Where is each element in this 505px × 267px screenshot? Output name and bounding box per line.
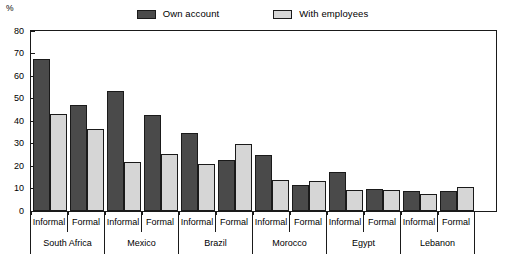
sector-label-mexico-formal: Formal — [141, 212, 178, 232]
bar-mexico-formal-emp — [161, 154, 178, 211]
bar-mexico-informal-emp — [124, 162, 141, 212]
legend-item-own: Own account — [137, 9, 220, 19]
y-tick-label: 10 — [14, 184, 31, 193]
legend-label-emp: With employees — [299, 9, 368, 19]
sector-label-brazil-formal: Formal — [215, 212, 252, 232]
sector-cell-brazil-informal — [179, 31, 216, 211]
sector-cell-egypt-formal — [364, 31, 401, 211]
sector-cell-egypt-informal — [327, 31, 364, 211]
bar-lebanon-informal-emp — [420, 194, 437, 211]
sector-cell-lebanon-formal — [438, 31, 475, 211]
bar-brazil-formal-emp — [235, 144, 252, 212]
country-group-morocco — [253, 31, 327, 211]
label-row-end-cap — [474, 232, 475, 254]
y-tick-label: 20 — [14, 162, 31, 171]
y-tick-label: 70 — [14, 49, 31, 58]
sector-label-morocco-formal: Formal — [289, 212, 326, 232]
bar-egypt-informal-emp — [346, 190, 363, 211]
sector-cell-mexico-formal — [142, 31, 179, 211]
bar-groups — [31, 31, 496, 211]
bar-south-africa-informal-emp — [50, 114, 67, 211]
sector-label-egypt-formal: Formal — [363, 212, 400, 232]
bar-lebanon-informal-own — [403, 191, 420, 211]
legend-swatch-own — [137, 10, 156, 19]
x-axis-labels: InformalFormalInformalFormalInformalForm… — [30, 212, 497, 254]
bar-morocco-formal-emp — [309, 181, 326, 211]
bar-brazil-informal-own — [181, 133, 198, 211]
sector-label-egypt-informal: Informal — [326, 212, 363, 232]
bar-brazil-informal-emp — [198, 164, 215, 211]
y-tick-label: 40 — [14, 117, 31, 126]
bar-egypt-formal-own — [366, 189, 383, 212]
sector-label-south-africa-formal: Formal — [67, 212, 104, 232]
legend-item-emp: With employees — [273, 9, 368, 19]
bar-egypt-formal-emp — [383, 190, 400, 211]
legend-swatch-emp — [273, 10, 292, 19]
bar-mexico-informal-own — [107, 91, 124, 211]
bar-south-africa-formal-own — [70, 105, 87, 211]
bar-morocco-informal-emp — [272, 180, 289, 212]
plot-area: 01020304050607080 — [30, 30, 497, 212]
country-label-south-africa: South Africa — [30, 232, 104, 254]
sector-cell-south-africa-formal — [68, 31, 105, 211]
bar-south-africa-informal-own — [33, 59, 50, 211]
sector-label-lebanon-formal: Formal — [437, 212, 474, 232]
country-label-row: South AfricaMexicoBrazilMoroccoEgyptLeba… — [30, 232, 497, 254]
y-axis-unit-label: % — [6, 4, 14, 13]
sector-cell-lebanon-informal — [401, 31, 438, 211]
grouped-bar-chart: Own accountWith employees % 010203040506… — [0, 0, 505, 267]
sector-cell-brazil-formal — [216, 31, 253, 211]
plot-inner: 01020304050607080 — [31, 31, 496, 211]
bar-egypt-informal-own — [329, 172, 346, 211]
country-group-mexico — [105, 31, 179, 211]
sector-cell-mexico-informal — [105, 31, 142, 211]
sector-label-south-africa-informal: Informal — [30, 212, 67, 232]
country-label-lebanon: Lebanon — [400, 232, 474, 254]
country-label-mexico: Mexico — [104, 232, 178, 254]
sector-label-row: InformalFormalInformalFormalInformalForm… — [30, 212, 497, 232]
bar-lebanon-formal-emp — [457, 187, 474, 211]
country-group-egypt — [327, 31, 401, 211]
y-tick-label: 50 — [14, 94, 31, 103]
sector-label-mexico-informal: Informal — [104, 212, 141, 232]
sector-label-lebanon-informal: Informal — [400, 212, 437, 232]
bar-mexico-formal-own — [144, 115, 161, 211]
chart-legend: Own accountWith employees — [0, 6, 505, 22]
bar-morocco-informal-own — [255, 155, 272, 211]
country-group-lebanon — [401, 31, 475, 211]
sector-cell-south-africa-informal — [31, 31, 68, 211]
sector-cell-morocco-informal — [253, 31, 290, 211]
country-label-morocco: Morocco — [252, 232, 326, 254]
bar-brazil-formal-own — [218, 160, 235, 211]
y-tick-label: 80 — [14, 27, 31, 36]
sector-cell-morocco-formal — [290, 31, 327, 211]
sector-label-morocco-informal: Informal — [252, 212, 289, 232]
y-tick-label: 60 — [14, 72, 31, 81]
bar-lebanon-formal-own — [440, 191, 457, 211]
sector-label-brazil-informal: Informal — [178, 212, 215, 232]
bar-south-africa-formal-emp — [87, 129, 104, 211]
label-row-end-cap — [474, 212, 475, 232]
country-label-egypt: Egypt — [326, 232, 400, 254]
country-group-south-africa — [31, 31, 105, 211]
country-group-brazil — [179, 31, 253, 211]
legend-label-own: Own account — [163, 9, 220, 19]
country-label-brazil: Brazil — [178, 232, 252, 254]
bar-morocco-formal-own — [292, 185, 309, 211]
y-tick-label: 30 — [14, 139, 31, 148]
